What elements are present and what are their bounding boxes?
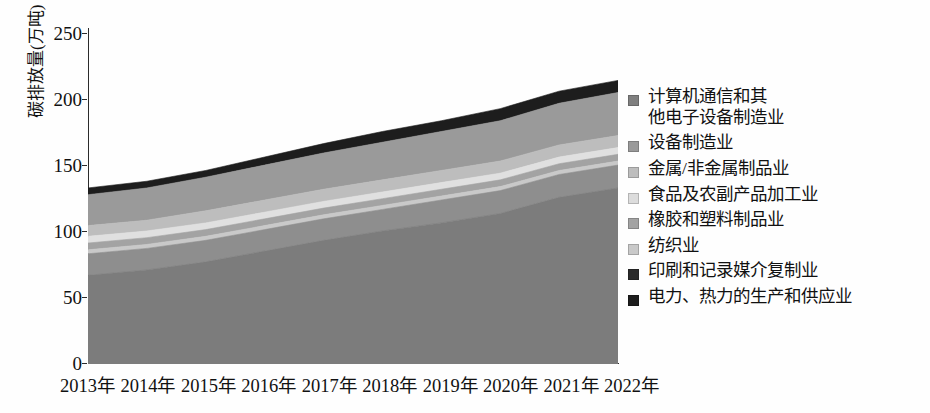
x-tick-2013年: 2013年 (60, 371, 116, 401)
x-tick-2017年: 2017年 (302, 371, 358, 401)
y-tick-50: 50 (24, 288, 82, 307)
legend-item[interactable]: 印刷和记录媒介复制业 (628, 260, 928, 281)
legend-swatch-icon (628, 167, 639, 178)
legend-item-label: 计算机通信和其 他电子设备制造业 (648, 86, 784, 127)
legend-item[interactable]: 计算机通信和其 他电子设备制造业 (628, 86, 928, 127)
legend-item[interactable]: 纺织业 (628, 235, 928, 256)
y-tick-250: 250 (24, 24, 82, 43)
plot-area (88, 28, 618, 364)
x-tick-2019年: 2019年 (423, 371, 479, 401)
y-tick-100: 100 (24, 222, 82, 241)
legend-swatch-icon (628, 95, 639, 106)
legend-item[interactable]: 食品及农副产品加工业 (628, 184, 928, 205)
legend-item-label: 印刷和记录媒介复制业 (648, 260, 818, 281)
legend-item-label: 设备制造业 (648, 132, 733, 153)
y-axis-ticks: 250 200 150 100 50 0 (8, 0, 82, 413)
legend-swatch-icon (628, 218, 639, 229)
legend-item-label: 金属/非金属制品业 (648, 158, 789, 179)
x-tick-2016年: 2016年 (241, 371, 297, 401)
x-tick-2021年: 2021年 (544, 371, 600, 401)
y-tickmark-250 (82, 33, 87, 34)
stacked-area-chart: 碳排放量(万吨) 250 200 150 100 50 0 2013年2014年… (0, 0, 930, 413)
legend-item[interactable]: 电力、热力的生产和供应业 (628, 286, 928, 307)
legend-swatch-icon (628, 141, 639, 152)
y-tickmark-200 (82, 99, 87, 100)
y-tickmark-150 (82, 165, 87, 166)
legend-swatch-icon (628, 295, 639, 306)
chart-legend: 计算机通信和其 他电子设备制造业设备制造业金属/非金属制品业食品及农副产品加工业… (628, 86, 928, 312)
legend-item-label: 纺织业 (648, 235, 699, 256)
legend-swatch-icon (628, 193, 639, 204)
y-tickmark-100 (82, 231, 87, 232)
y-tick-150: 150 (24, 156, 82, 175)
legend-item[interactable]: 金属/非金属制品业 (628, 158, 928, 179)
legend-item[interactable]: 橡胶和塑料制品业 (628, 209, 928, 230)
x-axis-ticks: 2013年2014年2015年2016年2017年2018年2019年2020年… (60, 371, 660, 401)
legend-swatch-icon (628, 269, 639, 280)
x-tick-2020年: 2020年 (483, 371, 539, 401)
x-tick-2015年: 2015年 (181, 371, 237, 401)
x-tick-2022年: 2022年 (604, 371, 660, 401)
legend-item-label: 电力、热力的生产和供应业 (648, 286, 852, 307)
area-series-group (88, 28, 618, 364)
x-tick-2018年: 2018年 (362, 371, 418, 401)
legend-item[interactable]: 设备制造业 (628, 132, 928, 153)
x-tick-2014年: 2014年 (120, 371, 176, 401)
legend-item-label: 橡胶和塑料制品业 (648, 209, 784, 230)
y-tickmark-50 (82, 297, 87, 298)
legend-item-label: 食品及农副产品加工业 (648, 184, 818, 205)
y-tickmark-0 (82, 363, 87, 364)
y-tick-200: 200 (24, 90, 82, 109)
legend-swatch-icon (628, 244, 639, 255)
